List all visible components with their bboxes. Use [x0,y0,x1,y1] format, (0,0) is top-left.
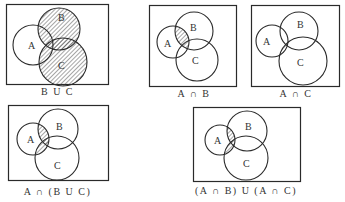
panel-caption: A ∩ B [148,88,240,99]
set-c-label: C [192,55,199,66]
set-c-label: C [297,57,304,68]
set-b-label: B [58,12,65,23]
set-a-label: A [263,36,271,47]
venn-diagram: A B C [148,0,240,100]
venn-panel-a-intersect-c: A B C A ∩ C [250,0,342,100]
set-c-label: C [54,160,61,171]
panel-caption: A ∩ C [250,88,342,99]
set-a-label: A [27,134,35,145]
set-c-label: C [243,158,250,169]
set-a-label: A [28,40,36,51]
venn-panel-b-union-c: A B C B U C [0,0,115,100]
set-a-label: A [164,38,172,49]
venn-panel-a-intersect-b: A B C A ∩ B [148,0,240,100]
set-b-label: B [56,121,63,132]
venn-diagram: A B C [0,0,115,100]
venn-panel-ab-union-ac: A B C (A ∩ B) U (A ∩ C) [180,100,345,202]
set-b-label: B [297,19,304,30]
panel-caption: A ∩ (B U C) [0,186,115,197]
panel-caption: B U C [0,86,115,97]
panel-caption: (A ∩ B) U (A ∩ C) [186,185,306,196]
set-b-label: B [245,121,252,132]
set-c-label: C [58,60,65,71]
venn-panel-a-intersect-b-union-c: A B C A ∩ (B U C) [0,100,115,202]
set-c-circle [35,136,79,180]
venn-diagram: A B C [250,0,342,100]
universal-set-box [194,108,301,182]
set-a-label: A [214,135,222,146]
universal-set-box [150,6,237,87]
set-b-label: B [190,22,197,33]
